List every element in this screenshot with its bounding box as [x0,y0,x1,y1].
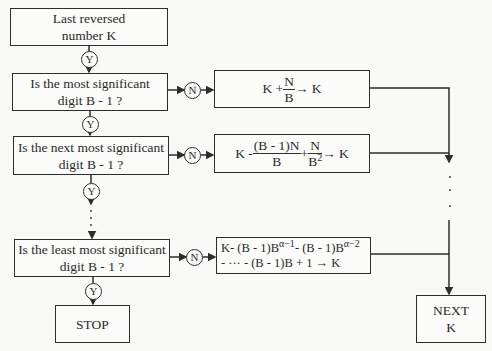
q1-line2: digit B - 1 ? [58,92,123,109]
stop-box: STOP [55,305,130,343]
no-node-3: N [186,249,203,266]
yes-node-4: Y [85,283,102,300]
f3-term2: - (B - 1)B [295,241,344,255]
next-k-box: NEXT K [416,295,486,343]
next-line2: K [446,319,456,336]
formula-box-1: K + NB → K [214,70,370,108]
question-next-significant: Is the next most significant digit B - 1… [13,136,169,175]
f2-mid: + [301,146,309,162]
question-most-significant: Is the most significant digit B - 1 ? [12,73,168,111]
f2-num1: (B - 1)N [253,138,301,154]
yes-node-3: Y [83,183,100,200]
f2-fraction-2: NB2 [308,138,322,169]
f2-right: → K [322,146,349,162]
yes-node-2: Y [82,116,99,133]
f2-den1: B [253,154,301,169]
no-node-1: N [184,82,201,99]
stop-label: STOP [76,316,109,333]
start-box: Last reversed number K [10,8,168,46]
next-line1: NEXT [433,302,469,319]
f2-left: K - [235,146,253,162]
f3-line1: K- (B - 1)Bα−1- (B - 1)Bα−2 [221,241,360,256]
f1-left: K + [262,81,283,97]
f2-den2-wrap: B2 [308,154,322,169]
f2-fraction-1: (B - 1)NB [253,138,301,169]
f1-right: → K [295,81,322,97]
q2-line1: Is the next most significant [18,139,164,156]
f3-term1: K- (B - 1)B [221,241,279,255]
f3-exp2: α−2 [344,237,360,248]
start-label-line2: number K [62,27,116,44]
f1-num: N [283,74,295,90]
start-label-line1: Last reversed [53,10,125,27]
question-least-significant: Is the least most significant digit B - … [14,239,170,277]
q3-line1: Is the least most significant [18,241,166,258]
f2-den2: B [308,154,317,169]
q2-line2: digit B - 1 ? [59,156,124,173]
yes-node-1: Y [81,51,98,68]
formula-box-3: K- (B - 1)Bα−1- (B - 1)Bα−2 - ··· - (B -… [216,237,371,274]
q1-line1: Is the most significant [30,75,150,92]
q3-line2: digit B - 1 ? [60,258,125,275]
f3-exp1: α−1 [279,237,295,248]
no-node-2: N [184,147,201,164]
f3-line2: - ··· - (B - 1)B + 1 → K [221,256,340,271]
f1-den: B [283,90,295,105]
f1-fraction: NB [283,74,295,105]
formula-box-2: K - (B - 1)NB + NB2 → K [214,134,370,173]
